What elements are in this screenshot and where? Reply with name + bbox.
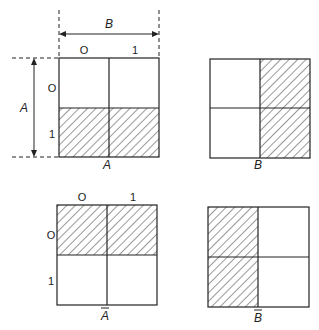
col-tick-0: O bbox=[80, 44, 89, 56]
panel-caption: B bbox=[254, 158, 262, 172]
panel-caption: A bbox=[102, 158, 111, 172]
panel-A: B A O 1 O 1 A bbox=[12, 10, 159, 172]
arrowhead-icon bbox=[31, 58, 37, 65]
A-dimension-label: A bbox=[19, 101, 28, 115]
panel-not-A: O 1 O 1 A bbox=[47, 191, 157, 323]
panel-caption: B bbox=[254, 311, 262, 325]
arrowhead-icon bbox=[31, 150, 37, 157]
row-tick-0: O bbox=[48, 82, 57, 94]
col-tick-0: O bbox=[78, 191, 87, 203]
col-tick-1: 1 bbox=[130, 191, 136, 203]
venn-karnaugh-diagram: B A O 1 O 1 A B O 1 O 1 A bbox=[0, 0, 319, 330]
panel-not-B: B bbox=[208, 207, 309, 325]
panel-B: B bbox=[210, 59, 310, 172]
row-tick-1: 1 bbox=[49, 128, 55, 140]
arrowhead-icon bbox=[59, 31, 66, 37]
arrowhead-icon bbox=[152, 31, 159, 37]
B-dimension-label: B bbox=[105, 17, 113, 31]
col-tick-1: 1 bbox=[132, 44, 138, 56]
panel-caption: A bbox=[100, 309, 109, 323]
row-tick-1: 1 bbox=[48, 275, 54, 287]
row-tick-0: O bbox=[47, 229, 56, 241]
